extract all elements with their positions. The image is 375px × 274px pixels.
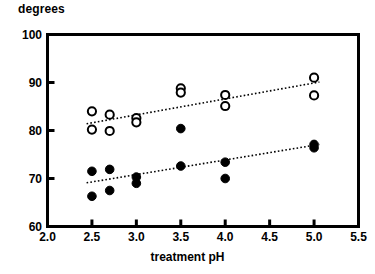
y-tick-label: 70 <box>29 172 42 186</box>
y-tick-label: 100 <box>22 28 42 42</box>
chart-figure: degrees treatment pH 60708090100 2.02.53… <box>0 0 375 274</box>
x-tick-label: 2.5 <box>69 230 115 244</box>
y-tick-label: 90 <box>29 76 42 90</box>
y-tick-label: 80 <box>29 124 42 138</box>
x-axis-label: treatment pH <box>0 250 375 264</box>
x-tick-label: 4.0 <box>202 230 248 244</box>
x-tick-label: 5.0 <box>291 230 337 244</box>
data-marker-group <box>88 74 319 201</box>
trendline-group <box>87 82 320 183</box>
x-tick-label: 2.0 <box>25 230 71 244</box>
x-tick-label: 4.5 <box>247 230 293 244</box>
x-tick-label: 5.5 <box>336 230 375 244</box>
axis-ticks <box>48 83 315 227</box>
x-tick-label: 3.5 <box>158 230 204 244</box>
x-tick-label: 3.0 <box>113 230 159 244</box>
y-axis-label: degrees <box>18 2 65 16</box>
